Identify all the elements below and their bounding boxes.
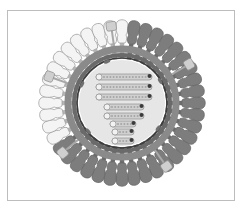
nucleoprotein-bead xyxy=(111,115,113,117)
nucleoprotein-bead xyxy=(109,96,111,98)
nucleoprotein-bead xyxy=(132,86,134,88)
nucleoprotein-bead xyxy=(117,115,119,117)
polymerase-cap xyxy=(130,129,134,133)
nucleoprotein-bead xyxy=(133,106,135,108)
nucleoprotein-bead xyxy=(127,123,129,125)
nucleoprotein-bead xyxy=(141,86,143,88)
nucleoprotein-bead xyxy=(129,86,131,88)
nucleoprotein-bead xyxy=(117,123,119,125)
nucleoprotein-bead xyxy=(123,123,125,125)
nucleoprotein-bead xyxy=(137,106,139,108)
polymerase-cap xyxy=(148,84,152,88)
nucleoprotein-bead xyxy=(116,86,118,88)
nucleoprotein-bead xyxy=(132,96,134,98)
nucleoprotein-bead xyxy=(109,86,111,88)
nucleoprotein-bead xyxy=(117,106,119,108)
knob-head xyxy=(106,21,117,31)
nucleoprotein-bead xyxy=(130,115,132,117)
rna-segment xyxy=(104,104,144,110)
spike-head xyxy=(116,20,128,43)
nucleoprotein-bead xyxy=(114,106,116,108)
rna-segment xyxy=(96,94,152,100)
spike-head xyxy=(116,163,128,186)
nucleoprotein-bead xyxy=(145,86,147,88)
nucleoprotein-bead xyxy=(127,115,129,117)
nucleoprotein-bead xyxy=(145,76,147,78)
nucleoprotein-bead xyxy=(133,115,135,117)
rna-segment xyxy=(112,129,134,135)
nucleoprotein-bead xyxy=(125,140,127,142)
nucleoprotein-bead xyxy=(125,96,127,98)
rna-segment xyxy=(110,121,136,127)
polymerase-cap xyxy=(148,94,152,98)
nucleoprotein-bead xyxy=(138,76,140,78)
nucleoprotein-bead xyxy=(120,123,122,125)
spike-head xyxy=(182,97,205,109)
rna-segment xyxy=(112,138,134,144)
nucleoprotein-bead xyxy=(103,86,105,88)
nucleoprotein-bead xyxy=(119,76,121,78)
nucleoprotein-bead xyxy=(113,96,115,98)
nucleoprotein-bead xyxy=(119,140,121,142)
nucleoprotein-bead xyxy=(111,106,113,108)
nucleoprotein-bead xyxy=(124,106,126,108)
nucleoprotein-bead xyxy=(119,131,121,133)
polymerase-cap xyxy=(148,74,152,78)
nucleoprotein-bead xyxy=(103,76,105,78)
nucleoprotein-bead xyxy=(106,86,108,88)
nucleoprotein-bead xyxy=(135,86,137,88)
nucleoprotein-bead xyxy=(125,131,127,133)
nucleoprotein-bead xyxy=(135,96,137,98)
nucleoprotein-bead xyxy=(130,106,132,108)
polymerase-cap xyxy=(140,113,144,117)
nucleoprotein-bead xyxy=(138,96,140,98)
nucleoprotein-bead xyxy=(116,96,118,98)
nucleoprotein-bead xyxy=(135,76,137,78)
nucleoprotein-bead xyxy=(141,96,143,98)
nucleoprotein-bead xyxy=(116,76,118,78)
nucleoprotein-bead xyxy=(122,96,124,98)
virus-particle-diagram xyxy=(0,0,244,210)
nucleoprotein-bead xyxy=(106,96,108,98)
rna-loop xyxy=(112,129,118,135)
rna-loop xyxy=(96,94,102,100)
nucleoprotein-bead xyxy=(113,86,115,88)
nucleoprotein-bead xyxy=(106,76,108,78)
nucleoprotein-bead xyxy=(145,96,147,98)
nucleoprotein-bead xyxy=(121,115,123,117)
nucleoprotein-bead xyxy=(121,106,123,108)
rna-loop xyxy=(96,84,102,90)
nucleoprotein-bead xyxy=(119,86,121,88)
nucleoprotein-bead xyxy=(122,86,124,88)
polymerase-cap xyxy=(132,121,136,125)
spike-head xyxy=(39,97,62,109)
polymerase-cap xyxy=(140,104,144,108)
nucleoprotein-bead xyxy=(122,140,124,142)
nucleoprotein-bead xyxy=(125,76,127,78)
nucleoprotein-bead xyxy=(114,115,116,117)
nucleoprotein-bead xyxy=(129,76,131,78)
nucleoprotein-bead xyxy=(132,76,134,78)
nucleoprotein-bead xyxy=(137,115,139,117)
rna-loop xyxy=(112,138,118,144)
polymerase-cap xyxy=(130,138,134,142)
rna-segment xyxy=(96,74,152,80)
nucleoprotein-bead xyxy=(113,76,115,78)
rna-segment xyxy=(96,84,152,90)
nucleoprotein-bead xyxy=(127,106,129,108)
rna-segment xyxy=(104,113,144,119)
nucleoprotein-bead xyxy=(141,76,143,78)
nucleoprotein-bead xyxy=(122,131,124,133)
nucleoprotein-bead xyxy=(103,96,105,98)
nucleoprotein-bead xyxy=(125,86,127,88)
rna-loop xyxy=(104,104,110,110)
nucleoprotein-bead xyxy=(130,123,132,125)
rna-loop xyxy=(96,74,102,80)
nucleoprotein-bead xyxy=(119,96,121,98)
nucleoprotein-bead xyxy=(122,76,124,78)
nucleoprotein-bead xyxy=(138,86,140,88)
nucleoprotein-bead xyxy=(124,115,126,117)
rna-loop xyxy=(104,113,110,119)
nucleoprotein-bead xyxy=(129,96,131,98)
nucleoprotein-bead xyxy=(109,76,111,78)
